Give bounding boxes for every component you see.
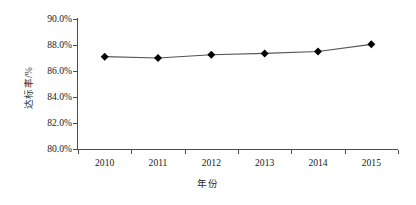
data-series-compliance-rate bbox=[78, 19, 398, 149]
data-point-marker bbox=[101, 53, 109, 61]
data-point-marker bbox=[207, 51, 215, 59]
x-axis-tick-label: 2011 bbox=[135, 157, 181, 169]
y-axis-tick-labels: 80.0%82.0%84.0%86.0%88.0%90.0% bbox=[26, 0, 72, 205]
x-axis-tick-label: 2015 bbox=[348, 157, 394, 169]
y-axis-tick-label: 82.0% bbox=[26, 118, 72, 128]
y-axis-tick-mark bbox=[73, 97, 77, 98]
series-line bbox=[105, 44, 372, 58]
x-axis-tick-mark bbox=[398, 150, 399, 154]
data-point-marker bbox=[367, 40, 375, 48]
x-axis-tick-label: 2014 bbox=[295, 157, 341, 169]
y-axis-tick-mark bbox=[73, 19, 77, 20]
x-axis-tick-mark bbox=[291, 150, 292, 154]
x-axis-tick-mark bbox=[238, 150, 239, 154]
x-axis-tick-label: 2010 bbox=[82, 157, 128, 169]
y-axis-tick-label: 80.0% bbox=[26, 144, 72, 154]
x-axis-tick-mark bbox=[78, 150, 79, 154]
y-axis-tick-label: 88.0% bbox=[26, 40, 72, 50]
y-axis-tick-mark bbox=[73, 45, 77, 46]
x-axis-tick-labels: 201020112012201320142015 bbox=[78, 157, 398, 171]
y-axis-tick-mark bbox=[73, 149, 77, 150]
data-point-marker bbox=[154, 54, 162, 62]
x-axis-tick-mark bbox=[345, 150, 346, 154]
y-axis-tick-label: 90.0% bbox=[26, 14, 72, 24]
y-axis-tick-mark bbox=[73, 123, 77, 124]
x-axis-tick-label: 2013 bbox=[242, 157, 288, 169]
x-axis-title: 年份 bbox=[0, 177, 416, 191]
y-axis-tick-mark bbox=[73, 71, 77, 72]
x-axis-tick-mark bbox=[185, 150, 186, 154]
x-axis-tick-mark bbox=[131, 150, 132, 154]
data-point-marker bbox=[314, 48, 322, 56]
x-axis-tick-label: 2012 bbox=[188, 157, 234, 169]
series-markers bbox=[101, 40, 376, 62]
data-point-marker bbox=[261, 49, 269, 57]
plot-area bbox=[78, 19, 398, 149]
line-chart: 达标率/% 80.0%82.0%84.0%86.0%88.0%90.0% 201… bbox=[0, 0, 416, 205]
y-axis-tick-label: 86.0% bbox=[26, 66, 72, 76]
y-axis-tick-label: 84.0% bbox=[26, 92, 72, 102]
